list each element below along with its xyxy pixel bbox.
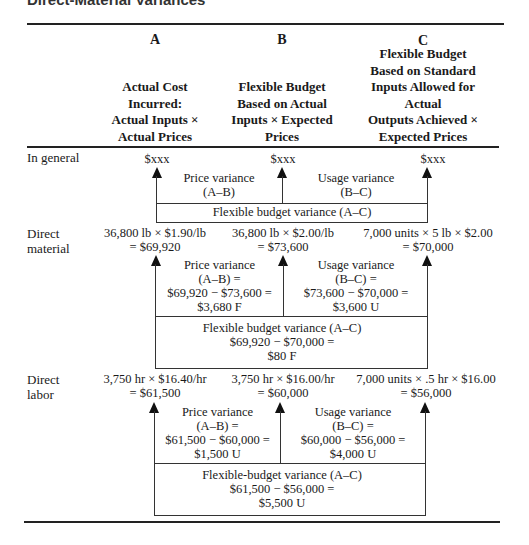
column-letter-a: A bbox=[105, 32, 205, 48]
bracket-bottom bbox=[155, 368, 428, 369]
bracket-divider bbox=[155, 316, 428, 317]
bracket-bottom bbox=[156, 222, 428, 223]
row-label-general: In general bbox=[27, 150, 79, 165]
labor-value-c: 7,000 units × .5 hr × $16.00 = $56,000 bbox=[345, 372, 507, 400]
column-heading-c: Flexible Budget Based on Standard Inputs… bbox=[353, 46, 493, 145]
page-title: Direct-Material Variances bbox=[27, 0, 205, 8]
labor-value-b: 3,750 hr × $16.00/hr = $60,000 bbox=[213, 372, 353, 400]
material-value-c: 7,000 units × 5 lb × $2.00 = $70,000 bbox=[353, 226, 503, 254]
bracket-divider bbox=[156, 203, 428, 204]
bracket-divider bbox=[154, 463, 426, 464]
row-label-material: Direct material bbox=[27, 226, 70, 256]
labor-value-a: 3,750 hr × $16.40/hr = $61,500 bbox=[85, 372, 225, 400]
labor-usage-variance: Usage variance (B–C) = $60,000 − $56,000… bbox=[289, 405, 417, 461]
bracket-bottom bbox=[154, 515, 426, 516]
general-value-c: $xxx bbox=[403, 152, 463, 166]
header-rule bbox=[27, 146, 499, 148]
labor-price-variance: Price variance (A–B) = $61,500 − $60,000… bbox=[155, 405, 280, 461]
material-price-variance: Price variance (A–B) = $69,920 − $73,600… bbox=[157, 258, 282, 314]
general-value-a: $xxx bbox=[127, 152, 187, 166]
column-heading-b: Flexible Budget Based on Actual Inputs ×… bbox=[212, 79, 352, 145]
material-flex-variance: Flexible budget variance (A–C) $69,920 −… bbox=[156, 321, 408, 363]
general-usage-variance: Usage variance (B–C) bbox=[306, 171, 406, 199]
bracket-line-b bbox=[282, 176, 283, 204]
general-value-b: $xxx bbox=[253, 152, 313, 166]
bracket-line-b bbox=[283, 264, 284, 317]
bottom-rule bbox=[24, 521, 500, 523]
column-letter-b: B bbox=[232, 32, 332, 48]
general-price-variance: Price variance (A–B) bbox=[169, 171, 269, 199]
material-value-a: 36,800 lb × $1.90/lb = $69,920 bbox=[85, 226, 225, 254]
labor-flex-variance: Flexible-budget variance (A–C) $61,500 −… bbox=[156, 468, 408, 510]
general-flex-variance: Flexible budget variance (A–C) bbox=[157, 205, 427, 219]
bracket-line-c bbox=[427, 176, 428, 223]
material-usage-variance: Usage variance (B–C) = $73,600 − $70,000… bbox=[292, 258, 420, 314]
row-label-labor: Direct labor bbox=[27, 372, 59, 402]
column-heading-a: Actual Cost Incurred: Actual Inputs × Ac… bbox=[85, 79, 225, 145]
top-rule bbox=[27, 23, 504, 25]
bracket-line-b bbox=[280, 411, 281, 464]
material-value-b: 36,800 lb × $2.00/lb = $73,600 bbox=[213, 226, 353, 254]
